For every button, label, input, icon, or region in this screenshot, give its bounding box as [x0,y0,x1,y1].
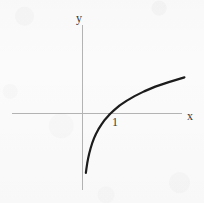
axes-group [12,25,182,190]
x-axis-label: x [187,110,193,122]
x-tick-label-1: 1 [112,116,118,128]
series-group [86,77,185,172]
y-axis-label: y [76,12,82,24]
figure-canvas: y x 1 [0,0,204,203]
curve-natural-log [86,77,185,172]
function-plot [0,0,204,203]
